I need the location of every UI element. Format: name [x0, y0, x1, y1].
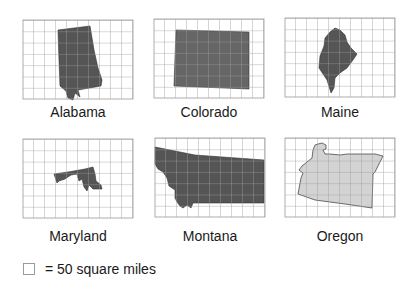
montana-map — [155, 138, 265, 217]
colorado-label: Colorado — [144, 104, 274, 120]
maine-label: Maine — [275, 104, 405, 120]
oregon-label: Oregon — [275, 228, 405, 244]
montana-label: Montana — [145, 228, 275, 244]
alabama-grid — [23, 20, 133, 99]
maine-map — [285, 18, 395, 97]
oregon-map — [285, 138, 395, 217]
legend-text: = 50 square miles — [45, 261, 156, 277]
grid-square-icon — [23, 263, 35, 275]
legend: = 50 square miles — [23, 261, 156, 277]
colorado-map — [154, 19, 264, 98]
maryland-map — [23, 139, 133, 218]
maryland-grid — [23, 139, 133, 218]
alabama-label: Alabama — [13, 104, 143, 120]
maryland-label: Maryland — [13, 228, 143, 244]
alabama-map — [23, 20, 133, 99]
montana-grid — [155, 138, 265, 217]
maine-grid — [285, 18, 395, 97]
oregon-grid — [285, 138, 395, 217]
colorado-grid — [154, 19, 264, 98]
